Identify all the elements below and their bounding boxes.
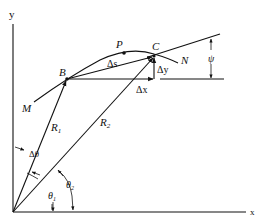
x-axis-label: x <box>250 207 255 217</box>
point-C-label: C <box>152 40 160 52</box>
R1-label: R1 <box>50 121 61 135</box>
theta1-label: θ1 <box>48 190 56 202</box>
point-C <box>152 54 155 57</box>
R1-vector <box>13 81 66 212</box>
dy-label: Δy <box>157 64 168 75</box>
psi-marker: ψ <box>208 39 215 78</box>
point-P <box>122 51 126 55</box>
ds-label: Δs <box>107 58 117 69</box>
dtheta-label: Δθ <box>29 149 39 159</box>
point-B <box>65 77 69 81</box>
path-curve <box>34 51 178 102</box>
dx-label: Δx <box>136 84 147 95</box>
theta2-label: θ2 <box>66 179 74 191</box>
point-P-label: P <box>115 38 123 50</box>
point-B-label: B <box>59 66 66 78</box>
R2-vector <box>13 58 153 212</box>
curvilinear-motion-diagram: y x M N B P C Δs Δx Δy R1 R2 Δθ <box>0 0 264 224</box>
theta1-marker: θ1 <box>48 190 56 211</box>
curve-end-label: N <box>180 54 189 66</box>
psi-label: ψ <box>208 53 215 64</box>
axes: y x <box>9 8 255 217</box>
theta2-marker: θ2 <box>58 170 74 210</box>
y-axis-label: y <box>9 8 15 20</box>
curve-start-label: M <box>21 102 32 114</box>
dtheta-marker: Δθ <box>15 147 40 179</box>
R2-label: R2 <box>99 116 111 130</box>
